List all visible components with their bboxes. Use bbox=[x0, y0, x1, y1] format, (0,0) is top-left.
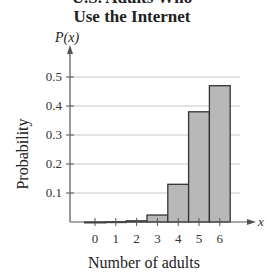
x-axis-symbol: x bbox=[257, 214, 264, 229]
x-tick-label: 0 bbox=[92, 231, 99, 246]
x-tick-label: 5 bbox=[196, 231, 203, 246]
x-tick-label: 3 bbox=[154, 231, 161, 246]
x-tick-label: 4 bbox=[175, 231, 182, 246]
y-tick-label: 0.1 bbox=[46, 185, 62, 200]
x-tick-label: 6 bbox=[217, 231, 224, 246]
y-tick-label: 0.2 bbox=[46, 156, 62, 171]
bar-5 bbox=[189, 112, 210, 222]
y-tick-label: 0.5 bbox=[46, 69, 62, 84]
y-tick-label: 0.4 bbox=[46, 98, 63, 113]
bar-4 bbox=[168, 184, 189, 222]
x-tick-label: 2 bbox=[133, 231, 140, 246]
x-tick-label: 1 bbox=[113, 231, 120, 246]
y-axis-arrow-icon bbox=[67, 45, 73, 54]
bar-6 bbox=[209, 86, 230, 222]
x-axis-arrow-icon bbox=[247, 219, 256, 225]
y-tick-label: 0.3 bbox=[46, 127, 62, 142]
histogram-plot: 0.10.20.30.40.5x0123456 bbox=[0, 0, 267, 279]
